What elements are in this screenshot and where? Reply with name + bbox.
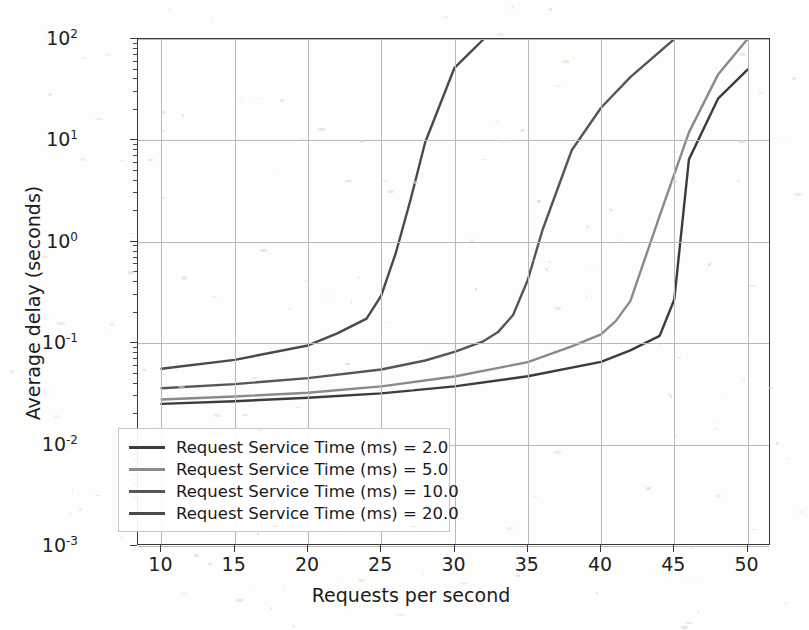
scan-speck — [251, 377, 258, 380]
scan-speck — [713, 422, 716, 423]
scan-speck — [554, 451, 561, 454]
scan-speck — [257, 429, 264, 431]
gridline-horizontal — [138, 343, 769, 344]
legend-line-swatch — [129, 468, 165, 471]
scan-speck — [194, 554, 199, 557]
scan-speck — [502, 140, 506, 143]
y-tick-mark — [130, 241, 137, 242]
scan-speck — [786, 458, 791, 459]
chart-page: Average delay (seconds) 10210110010-110-… — [0, 0, 809, 630]
scan-speck — [387, 287, 392, 288]
scan-speck — [596, 592, 598, 594]
scan-speck — [409, 526, 417, 527]
series-line — [161, 39, 483, 369]
scan-speck — [586, 225, 589, 228]
x-tick-mark — [673, 545, 674, 552]
scan-speck — [82, 57, 85, 59]
x-tick-label: 40 — [588, 553, 612, 575]
scan-speck — [142, 369, 146, 371]
y-tick-mark — [130, 139, 137, 140]
legend-item[interactable]: Request Service Time (ms) = 20.0 — [125, 502, 440, 524]
scan-speck — [46, 37, 54, 39]
x-tick-mark — [527, 545, 528, 552]
gridline-horizontal — [138, 242, 769, 243]
scan-speck — [749, 285, 756, 287]
scan-speck — [567, 60, 569, 63]
scan-speck — [397, 614, 405, 616]
scan-speck — [792, 77, 796, 80]
scan-speck — [742, 380, 746, 381]
scan-speck — [10, 370, 15, 373]
legend-item-label: Request Service Time (ms) = 20.0 — [176, 504, 459, 523]
scan-speck — [80, 158, 86, 161]
legend: Request Service Time (ms) = 2.0Request S… — [118, 428, 450, 532]
y-tick-mark — [130, 38, 137, 39]
scan-speck — [686, 622, 692, 624]
scan-speck — [118, 427, 120, 429]
scan-speck — [698, 611, 699, 614]
legend-line-swatch — [129, 490, 165, 493]
scan-speck — [358, 276, 360, 279]
scan-speck — [678, 357, 681, 359]
scan-speck — [69, 513, 71, 515]
y-tick-label: 10-1 — [42, 331, 78, 353]
scan-speck — [549, 8, 552, 11]
scan-speck — [506, 527, 513, 530]
legend-line-swatch — [129, 446, 165, 449]
gridline-vertical — [674, 39, 675, 544]
scan-speck — [783, 139, 786, 140]
x-tick-mark — [307, 545, 308, 552]
x-axis-label: Requests per second — [0, 584, 809, 606]
scan-speck — [345, 180, 352, 182]
x-tick-mark — [454, 545, 455, 552]
legend-item[interactable]: Request Service Time (ms) = 10.0 — [125, 480, 440, 502]
scan-speck — [798, 511, 803, 513]
scan-speck — [345, 363, 350, 365]
scan-speck — [172, 367, 173, 370]
gridline-horizontal — [138, 39, 769, 40]
gridline-vertical — [601, 39, 602, 544]
legend-line-swatch — [129, 512, 165, 515]
scan-speck — [292, 625, 295, 628]
x-tick-mark — [380, 545, 381, 552]
scan-speck — [300, 138, 303, 141]
scan-speck — [591, 266, 593, 267]
x-tick-label: 25 — [368, 553, 392, 575]
scan-speck — [208, 563, 212, 565]
scan-speck — [545, 268, 548, 271]
scan-speck — [181, 276, 188, 278]
scan-speck — [289, 308, 291, 310]
scan-speck — [794, 193, 802, 196]
scan-speck — [768, 387, 773, 389]
legend-item[interactable]: Request Service Time (ms) = 2.0 — [125, 436, 440, 458]
scan-speck — [695, 577, 697, 579]
gridline-vertical — [455, 39, 456, 544]
scan-speck — [327, 295, 329, 297]
scan-speck — [236, 599, 243, 602]
scan-speck — [128, 271, 135, 274]
scan-speck — [189, 449, 195, 451]
scan-speck — [109, 323, 115, 326]
scan-speck — [121, 536, 123, 538]
x-tick-label: 15 — [222, 553, 246, 575]
scan-speck — [280, 99, 284, 102]
gridline-vertical — [528, 39, 529, 544]
x-tick-label: 10 — [148, 553, 172, 575]
scan-speck — [776, 442, 779, 445]
scan-speck — [94, 495, 101, 496]
legend-item[interactable]: Request Service Time (ms) = 5.0 — [125, 458, 440, 480]
x-tick-mark — [160, 545, 161, 552]
scan-speck — [555, 307, 561, 310]
scan-speck — [79, 508, 82, 511]
scan-speck — [57, 322, 65, 325]
legend-item-label: Request Service Time (ms) = 10.0 — [176, 482, 459, 501]
scan-speck — [738, 140, 745, 143]
scan-speck — [72, 489, 73, 492]
legend-item-label: Request Service Time (ms) = 2.0 — [176, 438, 448, 457]
scan-speck — [128, 233, 135, 234]
scan-speck — [737, 180, 740, 182]
scan-speck — [121, 160, 124, 161]
x-tick-mark — [234, 545, 235, 552]
scan-speck — [147, 159, 154, 161]
x-tick-mark — [600, 545, 601, 552]
